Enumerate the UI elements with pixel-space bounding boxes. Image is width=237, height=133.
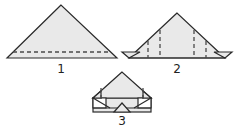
step-2-figure: 2: [122, 13, 232, 76]
step-1-triangle: [7, 5, 117, 58]
step-1-label: 1: [57, 62, 65, 76]
step-3-right-edge: [143, 91, 151, 98]
origami-diagram: 1 2 3: [0, 0, 237, 133]
step-2-label: 2: [173, 62, 181, 76]
step-3-figure: 3: [93, 72, 151, 128]
step-3-label: 3: [118, 114, 126, 128]
step-2-triangle: [129, 13, 225, 58]
step-3-left-edge: [93, 91, 101, 98]
step-3-roof: [93, 72, 151, 98]
step-1-figure: 1: [7, 5, 117, 76]
